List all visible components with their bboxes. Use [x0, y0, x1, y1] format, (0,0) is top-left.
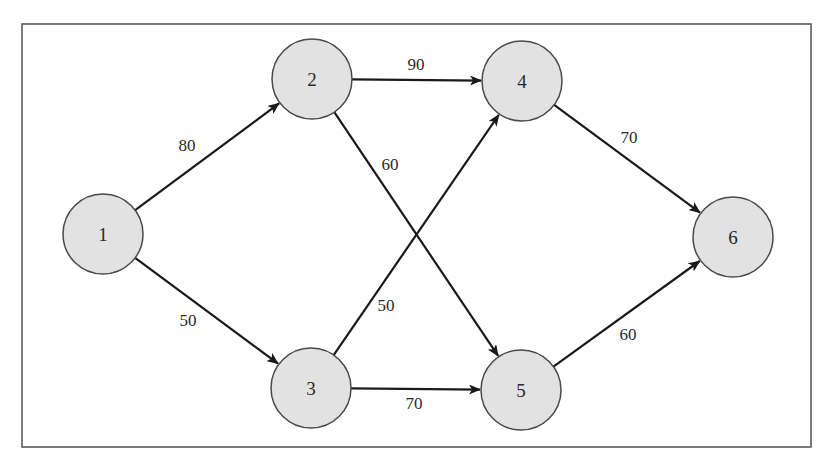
edge-1-to-2 [135, 103, 279, 210]
node-label: 3 [306, 378, 316, 399]
edges-layer [135, 79, 700, 389]
edge-1-to-3 [135, 258, 278, 364]
edge-weight-label: 90 [408, 55, 425, 74]
node-4: 4 [482, 41, 562, 121]
node-label: 6 [728, 227, 738, 248]
node-3: 3 [271, 348, 351, 428]
network-diagram: 123456 8050906050707060 [0, 0, 827, 462]
edge-2-to-4 [352, 79, 481, 80]
edge-weight-label: 70 [621, 128, 638, 147]
node-6: 6 [693, 197, 773, 277]
edge-weight-label: 50 [180, 311, 197, 330]
node-2: 2 [272, 39, 352, 119]
node-5: 5 [481, 350, 561, 430]
edge-5-to-6 [553, 261, 699, 367]
edge-weight-label: 60 [620, 325, 637, 344]
node-1: 1 [63, 194, 143, 274]
nodes-layer: 123456 [63, 39, 773, 430]
edge-4-to-6 [554, 105, 700, 213]
edge-weight-label: 50 [378, 296, 395, 315]
node-label: 5 [516, 380, 526, 401]
edge-weight-label: 60 [382, 155, 399, 174]
node-label: 2 [307, 69, 317, 90]
edge-labels-layer: 8050906050707060 [179, 55, 638, 413]
edge-3-to-5 [351, 388, 480, 389]
node-label: 1 [98, 224, 108, 245]
edge-weight-label: 70 [406, 394, 423, 413]
edge-weight-label: 80 [179, 136, 196, 155]
node-label: 4 [517, 71, 527, 92]
